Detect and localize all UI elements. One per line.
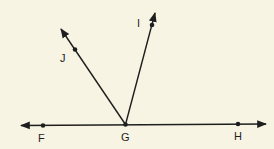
- ray-gi: [126, 13, 156, 125]
- label-h: H: [234, 130, 242, 142]
- point-i: [150, 23, 155, 28]
- label-f: F: [38, 132, 45, 144]
- point-j: [73, 47, 78, 52]
- label-g: G: [121, 131, 130, 143]
- label-j: J: [60, 52, 66, 64]
- point-g: [123, 122, 128, 127]
- label-i: I: [137, 17, 140, 29]
- point-h: [236, 122, 241, 127]
- line-fh: [21, 124, 266, 126]
- point-f: [41, 123, 46, 128]
- geometry-diagram: F G H J I: [0, 0, 274, 149]
- ray-gj: [61, 29, 126, 125]
